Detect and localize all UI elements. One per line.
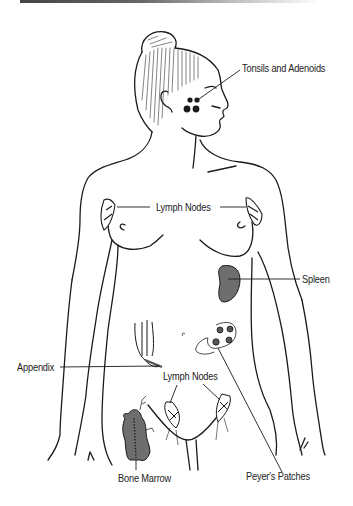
hair-strands xyxy=(142,36,198,125)
torso xyxy=(48,240,325,470)
leader-lines xyxy=(60,70,300,472)
tonsils-dots xyxy=(184,97,200,112)
appendix-shape xyxy=(135,320,162,367)
label-lymph-nodes-lower: Lymph Nodes xyxy=(163,370,218,382)
label-spleen: Spleen xyxy=(302,273,330,285)
label-bone-marrow: Bone Marrow xyxy=(118,472,171,484)
label-lymph-nodes-upper: Lymph Nodes xyxy=(156,201,211,213)
label-appendix: Appendix xyxy=(17,361,54,373)
inguinal-lymph-nodes xyxy=(165,394,231,445)
body-figure xyxy=(0,0,353,506)
label-tonsils-and-adenoids: Tonsils and Adenoids xyxy=(242,62,325,74)
label-peyers-patches: Peyer's Patches xyxy=(246,470,310,482)
head xyxy=(135,32,228,137)
spleen-shape xyxy=(219,266,240,302)
peyers-patches-shape xyxy=(182,322,236,354)
